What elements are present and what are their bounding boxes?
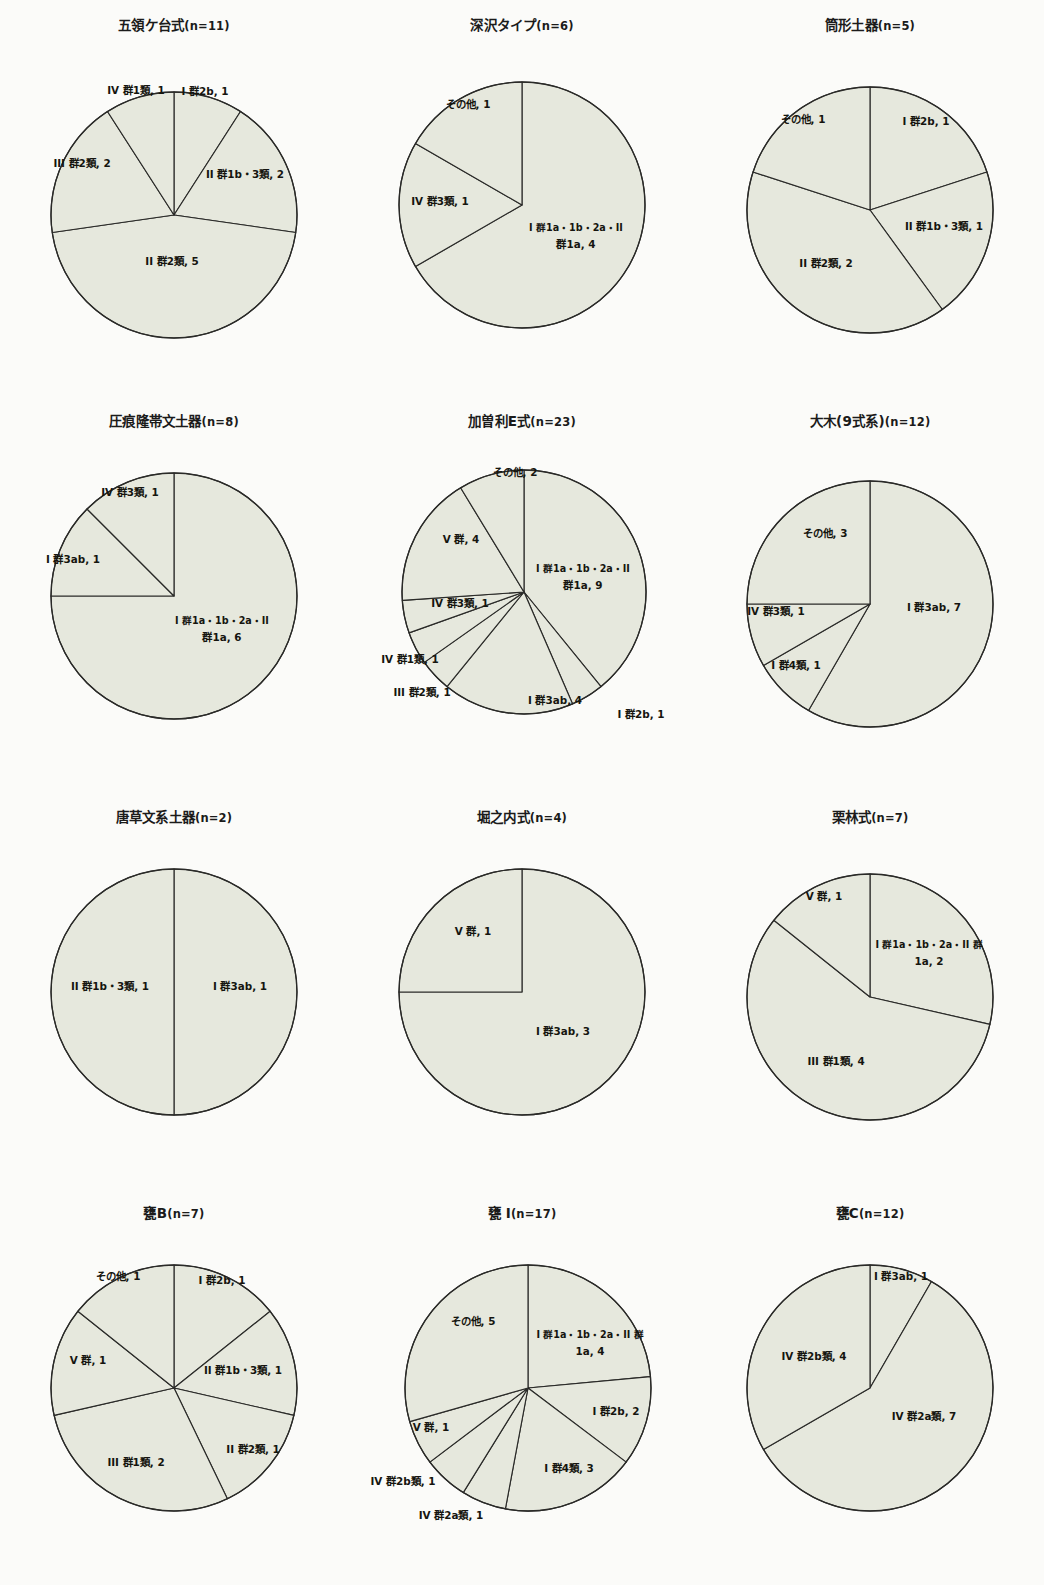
pie-svg: I 群2b, 1II 群1b・3類, 1II 群2類, 2その他, 1 <box>696 0 1044 396</box>
pie-svg: I 群3ab, 7I 群4類, 1IV 群3類, 1その他, 3 <box>696 396 1044 792</box>
slice-label: 1a, 4 <box>575 1345 604 1357</box>
pie-svg: I 群1a・1b・2a・II群1a, 4IV 群3類, 1その他, 1 <box>348 0 696 396</box>
pie-chart-cell: 加曽利E式(n=23)I 群1a・1b・2a・II群1a, 9I 群2b, 1I… <box>348 396 696 792</box>
slice-label: 群1a, 4 <box>556 238 595 250</box>
pie-svg: I 群2b, 1II 群1b・3類, 1II 群2類, 1III 群1類, 2V… <box>0 1188 348 1584</box>
pie-svg: I 群3ab, 3V 群, 1 <box>348 792 696 1188</box>
slice-label: IV 群1類, 1 <box>107 84 165 96</box>
slice-label: その他, 1 <box>446 98 491 110</box>
slice-label: IV 群3類, 1 <box>411 195 469 207</box>
slice-label: I 群1a・1b・2a・II <box>529 222 623 233</box>
pie-slice[interactable] <box>174 869 297 1115</box>
slice-label: I 群1a・1b・2a・II 群 <box>536 1329 643 1340</box>
pie-chart-cell: 栗林式(n=7)I 群1a・1b・2a・II 群1a, 2III 群1類, 4V… <box>696 792 1044 1188</box>
slice-label: V 群, 1 <box>806 890 842 902</box>
pie-chart-cell: 圧痕隆帯文土器(n=8)I 群1a・1b・2a・II群1a, 6I 群3ab, … <box>0 396 348 792</box>
slice-label: その他, 1 <box>96 1270 141 1282</box>
pie-svg: I 群3ab, 1IV 群2a類, 7IV 群2b類, 4 <box>696 1188 1044 1584</box>
slice-label: 群1a, 6 <box>202 631 241 643</box>
slice-label: II 群2類, 1 <box>226 1443 279 1455</box>
slice-label: IV 群2a類, 7 <box>892 1410 957 1422</box>
pie-chart-cell: 甕C(n=12)I 群3ab, 1IV 群2a類, 7IV 群2b類, 4 <box>696 1188 1044 1585</box>
slice-label: V 群, 4 <box>443 533 479 545</box>
slice-label: 群1a, 9 <box>563 579 602 591</box>
pie-chart-cell: 五領ケ台式(n=11)I 群2b, 1II 群1b・3類, 2II 群2類, 5… <box>0 0 348 396</box>
pie-slice[interactable] <box>528 1265 650 1388</box>
slice-label: 1a, 2 <box>914 955 943 967</box>
slice-label: I 群2b, 1 <box>618 708 665 720</box>
slice-label: I 群3ab, 1 <box>213 980 267 992</box>
pie-svg: I 群1a・1b・2a・II群1a, 6I 群3ab, 1IV 群3類, 1 <box>0 396 348 792</box>
slice-label: IV 群1類, 1 <box>381 653 439 665</box>
pie-svg: I 群2b, 1II 群1b・3類, 2II 群2類, 5III 群2類, 2I… <box>0 0 348 396</box>
slice-label: I 群1a・1b・2a・II <box>536 563 630 574</box>
slice-label: II 群1b・3類, 1 <box>905 220 983 232</box>
slice-label: II 群1b・3類, 1 <box>71 980 149 992</box>
pie-slice[interactable] <box>747 481 870 604</box>
slice-label: その他, 1 <box>781 113 826 125</box>
slice-label: その他, 5 <box>451 1315 496 1327</box>
pie-chart-cell: 堀之内式(n=4)I 群3ab, 3V 群, 1 <box>348 792 696 1188</box>
pie-chart-cell: 甕 I(n=17)I 群1a・1b・2a・II 群1a, 4I 群2b, 2I … <box>348 1188 696 1585</box>
slice-label: I 群2b, 1 <box>182 85 229 97</box>
slice-label: I 群1a・1b・2a・II <box>175 615 269 626</box>
slice-label: II 群1b・3類, 1 <box>204 1364 282 1376</box>
slice-label: I 群3ab, 7 <box>907 601 961 613</box>
slice-label: III 群1類, 2 <box>107 1456 164 1468</box>
slice-label: III 群2類, 2 <box>53 157 110 169</box>
pie-svg: I 群1a・1b・2a・II群1a, 9I 群2b, 1I 群3ab, 4III… <box>348 396 696 792</box>
slice-label: II 群2類, 5 <box>145 255 198 267</box>
pie-chart-cell: 唐草文系土器(n=2)I 群3ab, 1II 群1b・3類, 1 <box>0 792 348 1188</box>
slice-label: IV 群2b類, 1 <box>371 1475 436 1487</box>
slice-label: V 群, 1 <box>455 925 491 937</box>
pie-svg: I 群3ab, 1II 群1b・3類, 1 <box>0 792 348 1188</box>
slice-label: I 群2b, 1 <box>199 1274 246 1286</box>
pie-slice[interactable] <box>52 215 295 338</box>
slice-label: IV 群3類, 1 <box>747 605 805 617</box>
slice-label: I 群3ab, 1 <box>46 553 100 565</box>
pie-svg: I 群1a・1b・2a・II 群1a, 2III 群1類, 4V 群, 1 <box>696 792 1044 1188</box>
pie-chart-cell: 筒形土器(n=5)I 群2b, 1II 群1b・3類, 1II 群2類, 2その… <box>696 0 1044 396</box>
pie-chart-cell: 深沢タイプ(n=6)I 群1a・1b・2a・II群1a, 4IV 群3類, 1そ… <box>348 0 696 396</box>
slice-label: その他, 2 <box>493 466 538 478</box>
slice-label: その他, 3 <box>803 527 848 539</box>
slice-label: I 群2b, 2 <box>593 1405 640 1417</box>
pie-chart-cell: 大木(9式系)(n=12)I 群3ab, 7I 群4類, 1IV 群3類, 1そ… <box>696 396 1044 792</box>
slice-label: V 群, 1 <box>413 1421 449 1433</box>
slice-label: IV 群3類, 1 <box>431 597 489 609</box>
slice-label: V 群, 1 <box>70 1354 106 1366</box>
slice-label: I 群3ab, 1 <box>874 1270 928 1282</box>
slice-label: IV 群2a類, 1 <box>419 1509 484 1521</box>
slice-label: I 群4類, 3 <box>544 1462 594 1474</box>
slice-label: IV 群2b類, 4 <box>782 1350 847 1362</box>
pie-svg: I 群1a・1b・2a・II 群1a, 4I 群2b, 2I 群4類, 3IV … <box>348 1188 696 1584</box>
slice-label: I 群3ab, 4 <box>528 694 582 706</box>
slice-label: III 群2類, 1 <box>393 686 450 698</box>
slice-label: II 群1b・3類, 2 <box>206 168 284 180</box>
slice-label: I 群2b, 1 <box>903 115 950 127</box>
pie-chart-cell: 甕B(n=7)I 群2b, 1II 群1b・3類, 1II 群2類, 1III … <box>0 1188 348 1585</box>
chart-sheet: 五領ケ台式(n=11)I 群2b, 1II 群1b・3類, 2II 群2類, 5… <box>0 0 1044 1585</box>
slice-label: IV 群3類, 1 <box>101 486 159 498</box>
pie-chart-grid: 五領ケ台式(n=11)I 群2b, 1II 群1b・3類, 2II 群2類, 5… <box>0 0 1044 1585</box>
pie-slice[interactable] <box>51 869 174 1115</box>
slice-label: I 群1a・1b・2a・II 群 <box>875 939 982 950</box>
slice-label: III 群1類, 4 <box>807 1055 864 1067</box>
slice-label: II 群2類, 2 <box>799 257 852 269</box>
slice-label: I 群3ab, 3 <box>536 1025 590 1037</box>
slice-label: I 群4類, 1 <box>771 659 821 671</box>
